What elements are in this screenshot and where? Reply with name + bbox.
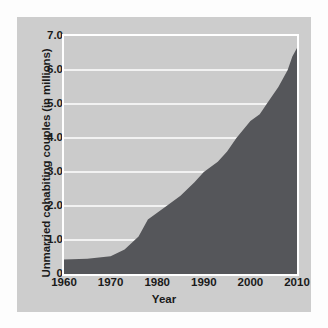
y-tick-label: 4.0 [29,132,63,144]
y-tick-label: 2.0 [29,200,63,212]
area-series [64,36,297,274]
y-tick-label: 7.0 [29,30,63,42]
chart-page: Unmarried cohabiting couples (in million… [0,0,328,328]
x-tick-label: 1960 [51,276,77,288]
y-tick-label: 1.0 [29,234,63,246]
x-tick-label: 1990 [191,276,217,288]
area-polygon [64,48,297,274]
plot-area [62,34,299,276]
x-tick-label: 1980 [144,276,170,288]
y-tick-label: 3.0 [29,166,63,178]
x-axis-tick-labels: 196019701980199020002010 [62,276,299,292]
y-tick-label: 5.0 [29,98,63,110]
chart-card: Unmarried cohabiting couples (in million… [17,17,311,312]
plot-inner [64,36,297,274]
x-tick-label: 2010 [284,276,310,288]
x-axis-title: Year [17,293,311,305]
y-axis-tick-labels: 01.02.03.04.05.06.07.0 [25,34,63,272]
x-tick-label: 1970 [98,276,124,288]
x-tick-label: 2000 [238,276,264,288]
y-tick-label: 6.0 [29,64,63,76]
